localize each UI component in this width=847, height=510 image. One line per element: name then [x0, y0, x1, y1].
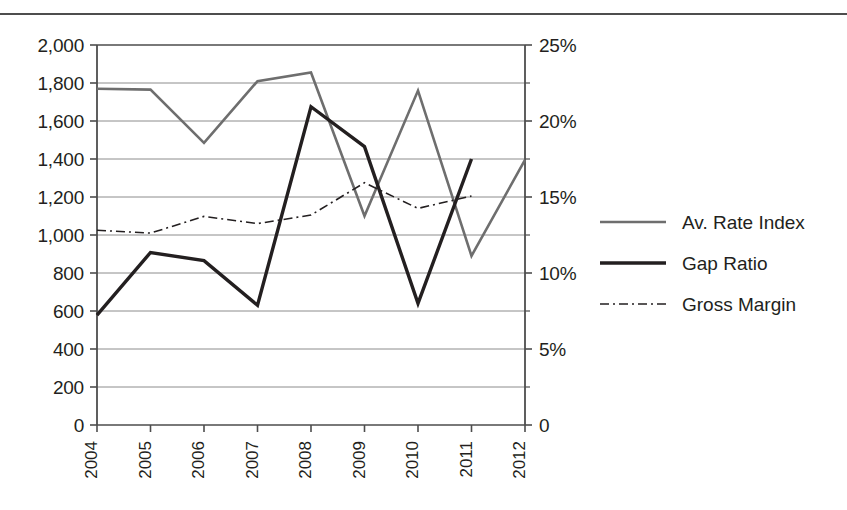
y-axis-left-tick-label: 1,800	[37, 73, 84, 94]
series-line-gap-ratio	[97, 107, 472, 315]
legend-label-av-rate-index[interactable]: Av. Rate Index	[682, 212, 805, 233]
y-axis-right-tick-label: 25%	[539, 35, 577, 56]
x-axis-tick-label: 2009	[350, 441, 369, 479]
y-axis-right-tick-label: 10%	[539, 263, 577, 284]
x-axis-tick-label: 2010	[403, 441, 422, 479]
x-axis-tick-label: 2004	[82, 441, 101, 479]
y-axis-right-tick-label: 0	[539, 415, 549, 436]
x-axis-tick-label: 2011	[457, 441, 476, 478]
y-axis-left-tick-label: 1,200	[37, 187, 84, 208]
line-chart: 02004006008001,0001,2001,4001,6001,8002,…	[0, 0, 847, 510]
series-line-av-rate-index	[97, 73, 525, 256]
legend-label-gap-ratio[interactable]: Gap Ratio	[682, 253, 768, 274]
x-axis-tick-label: 2012	[510, 441, 529, 479]
y-axis-left-tick-label: 1,000	[37, 225, 84, 246]
x-axis-tick-label: 2008	[296, 441, 315, 479]
y-axis-left-tick-label: 0	[74, 415, 84, 436]
y-axis-left-tick-label: 600	[53, 301, 84, 322]
y-axis-left-tick-label: 800	[53, 263, 84, 284]
chart-figure: 02004006008001,0001,2001,4001,6001,8002,…	[0, 0, 847, 510]
x-axis-tick-label: 2005	[136, 441, 155, 479]
y-axis-left-tick-label: 1,400	[37, 149, 84, 170]
y-axis-left-tick-label: 1,600	[37, 111, 84, 132]
x-axis-tick-label: 2007	[243, 441, 262, 479]
y-axis-right-tick-label: 15%	[539, 187, 577, 208]
legend-label-gross-margin[interactable]: Gross Margin	[682, 294, 796, 315]
y-axis-left-tick-label: 2,000	[37, 35, 84, 56]
y-axis-right-tick-label: 20%	[539, 111, 577, 132]
x-axis-tick-label: 2006	[189, 441, 208, 479]
y-axis-left-tick-label: 200	[53, 377, 84, 398]
y-axis-left-tick-label: 400	[53, 339, 84, 360]
y-axis-right-tick-label: 5%	[539, 339, 566, 360]
